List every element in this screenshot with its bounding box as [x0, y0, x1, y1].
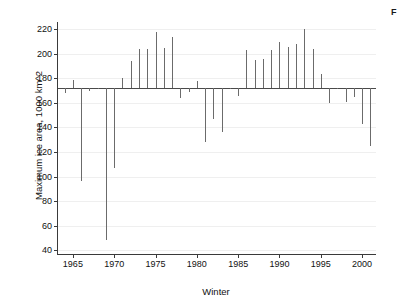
- spike-bar: [255, 60, 256, 88]
- x-tick-label: 1985: [228, 260, 248, 269]
- x-tick-mark: [114, 254, 115, 258]
- spike-bar: [172, 37, 173, 89]
- x-tick-label: 1965: [63, 260, 83, 269]
- spike-bar: [122, 78, 123, 88]
- x-tick-label: 2000: [352, 260, 372, 269]
- spike-bar: [321, 74, 322, 89]
- spike-bar: [238, 88, 239, 95]
- spike-bar: [362, 88, 363, 124]
- spike-bar: [263, 59, 264, 88]
- spike-bar: [189, 88, 190, 92]
- y-tick-label: 120: [37, 148, 52, 157]
- plot-area: 406080100120140160180200220 196519701975…: [57, 22, 376, 255]
- x-tick-mark: [238, 254, 239, 258]
- y-tick-label: 40: [42, 246, 52, 255]
- spike-bar: [246, 50, 247, 88]
- spike-bar: [164, 48, 165, 88]
- y-tick-mark: [54, 201, 58, 202]
- spike-bar: [296, 44, 297, 88]
- x-tick-mark: [362, 254, 363, 258]
- y-tick-label: 100: [37, 173, 52, 182]
- spike-bar: [346, 88, 347, 101]
- spike-bar: [197, 81, 198, 88]
- y-tick-label: 80: [42, 197, 52, 206]
- y-tick-label: 140: [37, 123, 52, 132]
- spike-bar: [98, 88, 99, 89]
- x-tick-label: 1990: [269, 260, 289, 269]
- spike-bar: [304, 29, 305, 88]
- gridline: [58, 54, 376, 55]
- spike-bar: [131, 61, 132, 88]
- y-tick-mark: [54, 29, 58, 30]
- spike-bar: [329, 88, 330, 103]
- y-tick-mark: [54, 78, 58, 79]
- spike-bar: [180, 88, 181, 98]
- spike-bar: [114, 88, 115, 168]
- spike-bar: [313, 49, 314, 88]
- gridline: [58, 78, 376, 79]
- x-tick-label: 1970: [104, 260, 124, 269]
- x-axis-title: Winter: [56, 286, 376, 297]
- x-tick-label: 1980: [187, 260, 207, 269]
- x-tick-mark: [279, 254, 280, 258]
- y-tick-mark: [54, 226, 58, 227]
- spike-bar: [337, 88, 338, 89]
- spike-bar: [89, 88, 90, 90]
- spike-bar: [73, 80, 74, 89]
- spike-bar: [279, 42, 280, 89]
- y-tick-mark: [54, 250, 58, 251]
- y-tick-mark: [54, 103, 58, 104]
- spike-bar: [213, 88, 214, 119]
- x-tick-mark: [321, 254, 322, 258]
- spike-bar: [230, 88, 231, 89]
- spike-bar: [288, 47, 289, 89]
- gridline: [58, 29, 376, 30]
- y-tick-label: 200: [37, 50, 52, 59]
- x-tick-mark: [73, 254, 74, 258]
- y-tick-mark: [54, 127, 58, 128]
- spike-bar: [354, 88, 355, 97]
- spike-bar: [106, 88, 107, 240]
- x-tick-mark: [156, 254, 157, 258]
- y-tick-label: 160: [37, 99, 52, 108]
- y-tick-mark: [54, 152, 58, 153]
- spike-bar: [370, 88, 371, 146]
- x-tick-mark: [197, 254, 198, 258]
- spike-bar: [222, 88, 223, 132]
- spike-bar: [81, 88, 82, 181]
- figure-root: F Maximum ice area, 1000 km^2 Winter 406…: [0, 0, 403, 308]
- y-tick-label: 220: [37, 25, 52, 34]
- y-tick-mark: [54, 54, 58, 55]
- x-tick-label: 1975: [146, 260, 166, 269]
- x-tick-label: 1995: [311, 260, 331, 269]
- y-tick-mark: [54, 177, 58, 178]
- spike-bar: [65, 88, 66, 93]
- gridline: [58, 250, 376, 251]
- spike-bar: [147, 49, 148, 88]
- spike-bar: [156, 32, 157, 88]
- y-tick-label: 60: [42, 222, 52, 231]
- spike-bar: [271, 50, 272, 88]
- spike-bar: [139, 49, 140, 88]
- spike-bar: [205, 88, 206, 142]
- caption-fragment-text: F: [391, 7, 397, 17]
- y-tick-label: 180: [37, 74, 52, 83]
